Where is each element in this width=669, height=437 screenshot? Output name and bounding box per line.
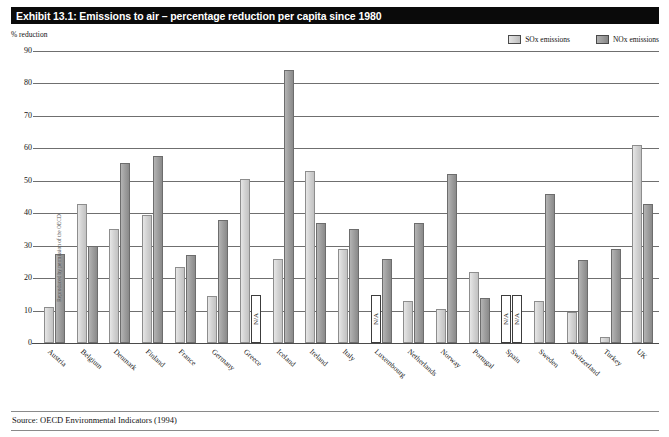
x-tick-label: Finland [144,347,167,369]
bar-sox[interactable] [207,296,217,343]
x-label-cell: Belgium [71,345,104,405]
bar-group [528,51,561,343]
bar-sox[interactable] [534,301,544,343]
y-tick-label: 90 [8,47,32,55]
bar-nox[interactable] [218,220,228,343]
bar-nox[interactable] [284,70,294,343]
x-label-cell: Iceland [267,345,300,405]
exhibit-title-bar: Exhibit 13.1: Emissions to air – percent… [11,7,659,24]
bar-nox[interactable] [578,260,588,343]
x-tick-label: Spain [504,347,523,365]
x-tick-label: Italy [341,347,357,363]
x-label-cell: Germany [201,345,234,405]
bar-sox[interactable] [436,309,446,343]
bar-nox[interactable] [414,223,424,343]
bar-nox[interactable] [153,156,163,343]
x-tick-label: Ireland [308,347,330,368]
x-tick-label: Iceland [275,347,297,368]
bar-group [332,51,365,343]
na-label: N/A [502,313,510,325]
bar-sox[interactable] [240,179,250,343]
x-tick-label: Norway [439,347,463,370]
bar-group [136,51,169,343]
chart-legend: SOx emissions NOx emissions [508,35,659,44]
square-swatch-icon [596,35,609,44]
bar-sox[interactable] [469,272,479,343]
bar-sox[interactable] [77,204,87,344]
bar-nox[interactable] [349,229,359,343]
bar-nox[interactable] [643,204,653,344]
na-label: N/A [513,313,521,325]
bar-sox[interactable] [44,307,54,343]
x-label-cell: Norway [430,345,463,405]
bar-group [626,51,659,343]
bar-group [201,51,234,343]
x-label-cell: UK [626,345,659,405]
legend-label-sox: SOx emissions [525,35,570,44]
x-label-cell: Finland [136,345,169,405]
bar-group: N/A [365,51,398,343]
bar-nox[interactable] [186,255,196,343]
y-tick-label: 40 [8,209,32,217]
bar-na-marker[interactable]: N/A [371,295,381,343]
y-tick-label: 70 [8,112,32,120]
bar-nox[interactable] [447,174,457,343]
bar-group [430,51,463,343]
x-label-cell: Denmark [103,345,136,405]
legend-item-sox: SOx emissions [508,35,570,44]
source-text: Source: OECD Environmental Indicators (1… [12,415,177,425]
y-tick-label: 0 [8,339,32,347]
bar-nox[interactable] [316,223,326,343]
x-tick-label: Turkey [602,347,624,368]
exhibit-page: Exhibit 13.1: Emissions to air – percent… [0,0,669,437]
x-label-cell: Switzerland [561,345,594,405]
bar-nox[interactable] [545,194,555,343]
x-label-cell: Austria [38,345,71,405]
bar-nox[interactable] [611,249,621,343]
x-label-cell: Ireland [300,345,333,405]
bar-sox[interactable] [175,267,185,343]
bar-sox[interactable] [305,171,315,343]
bar-sox[interactable] [403,301,413,343]
square-swatch-icon [508,35,521,44]
bar-group: N/A [234,51,267,343]
x-tick-label: Denmark [112,347,139,372]
bar-sox[interactable] [632,145,642,343]
x-label-cell: Sweden [528,345,561,405]
bar-sox[interactable] [600,337,610,343]
bar-sox[interactable] [338,249,348,343]
x-label-cell: Netherlands [398,345,431,405]
x-tick-label: France [177,347,198,367]
x-axis-line [32,343,659,344]
bar-sox[interactable] [273,259,283,343]
bar-group [267,51,300,343]
x-axis-labels: AustriaBelgiumDenmarkFinlandFranceGerman… [38,345,659,405]
y-tick-label: 10 [8,307,32,315]
y-tick-label: 30 [8,242,32,250]
bar-sox[interactable] [142,215,152,343]
x-tick-label: UK [635,347,649,361]
bar-sox[interactable] [567,312,577,343]
y-axis-label: % reduction [11,30,47,39]
x-tick-label: Belgium [79,347,104,371]
bar-na-marker[interactable]: N/A [251,295,261,343]
bar-nox[interactable] [382,259,392,343]
x-tick-label: Germany [210,347,237,372]
x-label-cell: Italy [332,345,365,405]
bar-nox[interactable] [480,298,490,343]
bar-sox[interactable] [109,229,119,343]
bar-nox[interactable] [88,246,98,343]
plot-area: 9080706050403020100 N/AN/AN/AN/A [38,51,659,343]
x-label-cell: Portugal [463,345,496,405]
side-credit: Reproduced by permission of the OECD [56,183,62,333]
y-tick-label: 60 [8,144,32,152]
bar-group [169,51,202,343]
bar-na-marker[interactable]: N/A [501,295,511,343]
bar-nox[interactable] [120,163,130,343]
exhibit-title: Exhibit 13.1: Emissions to air – percent… [11,10,381,22]
bar-na-marker[interactable]: N/A [512,295,522,343]
bar-group [594,51,627,343]
x-label-cell: Turkey [594,345,627,405]
na-label: N/A [372,313,380,325]
bar-groups: N/AN/AN/AN/A [38,51,659,343]
